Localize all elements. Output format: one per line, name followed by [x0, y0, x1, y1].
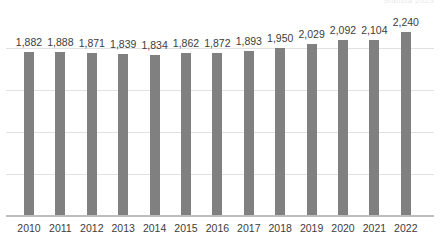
bar[interactable] [24, 52, 34, 216]
x-tick-label: 2015 [169, 222, 203, 234]
bar[interactable] [212, 53, 222, 216]
x-tick-label: 2018 [263, 222, 297, 234]
bar-value-label: 1,950 [263, 32, 297, 44]
x-tick-label: 2011 [43, 222, 77, 234]
x-tick-label: 2012 [75, 222, 109, 234]
bar-value-label: 2,092 [326, 24, 360, 36]
bar-value-label: 2,240 [389, 16, 423, 28]
bar[interactable] [118, 54, 128, 216]
bar[interactable] [244, 51, 254, 216]
bar[interactable] [307, 44, 317, 216]
bar-chart: Statista 2023 1,8821,8881,8711,8391,8341… [0, 0, 440, 244]
bar-value-label: 1,871 [75, 37, 109, 49]
bar[interactable] [150, 55, 160, 216]
bar-value-label: 1,834 [138, 39, 172, 51]
plot-area: 1,8821,8881,8711,8391,8341,8621,8721,893… [0, 0, 440, 216]
bar[interactable] [369, 40, 379, 216]
bar[interactable] [338, 40, 348, 216]
x-tick-label: 2021 [357, 222, 391, 234]
bar-value-label: 2,029 [295, 28, 329, 40]
x-tick-label: 2014 [138, 222, 172, 234]
bar-value-label: 1,872 [200, 37, 234, 49]
x-tick-label: 2020 [326, 222, 360, 234]
bar-value-label: 1,862 [169, 37, 203, 49]
bar-value-label: 2,104 [357, 24, 391, 36]
bar-value-label: 1,839 [106, 38, 140, 50]
x-axis-labels-group: 2010201120122013201420152016201720182019… [0, 218, 440, 244]
x-tick-label: 2010 [12, 222, 46, 234]
bar[interactable] [87, 53, 97, 216]
bar[interactable] [401, 32, 411, 216]
bar-value-label: 1,888 [43, 36, 77, 48]
bar[interactable] [55, 52, 65, 216]
x-axis-line [6, 215, 434, 217]
x-tick-label: 2016 [200, 222, 234, 234]
x-tick-label: 2019 [295, 222, 329, 234]
x-tick-label: 2022 [389, 222, 423, 234]
bar[interactable] [181, 53, 191, 216]
bar[interactable] [275, 48, 285, 216]
x-tick-label: 2017 [232, 222, 266, 234]
bar-value-label: 1,882 [12, 36, 46, 48]
bar-value-label: 1,893 [232, 35, 266, 47]
x-tick-label: 2013 [106, 222, 140, 234]
